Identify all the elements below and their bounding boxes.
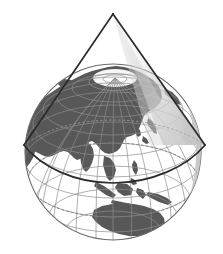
projection-diagram-canvas: [0, 0, 223, 254]
conic-projection-figure: Conic projection tangent to a globe: [0, 0, 223, 254]
cone-apex: [112, 13, 114, 15]
